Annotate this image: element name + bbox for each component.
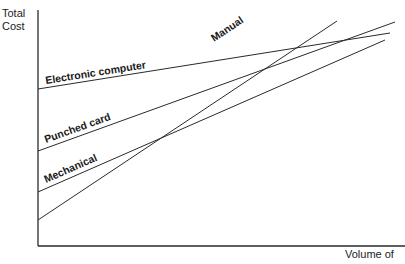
cost-volume-chart: Electronic computer Punched card Mechani… <box>0 0 405 264</box>
label-punched-card: Punched card <box>43 110 112 145</box>
label-electronic-computer: Electronic computer <box>44 58 146 86</box>
x-axis-label: Volume of <box>345 248 394 260</box>
label-manual: Manual <box>208 14 245 44</box>
label-mechanical: Mechanical <box>42 151 99 185</box>
